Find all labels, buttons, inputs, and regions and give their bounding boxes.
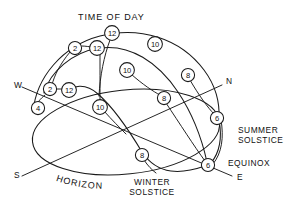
hour-marker-winter-12: 12	[62, 83, 77, 98]
annotation-line: SUMMER	[238, 125, 278, 135]
hour-marker-label: 8	[140, 151, 144, 160]
hour-marker-label: 4	[36, 104, 40, 113]
hour-marker-label: 6	[206, 161, 210, 170]
annotation-winter-solstice: WINTERSOLSTICE	[129, 177, 174, 197]
cardinal-label-north: N	[226, 76, 232, 86]
hour-marker-label: 8	[186, 71, 190, 80]
hour-marker-label: 12	[65, 86, 73, 95]
horizon-label: HORIZON	[55, 173, 103, 191]
hour-marker-winter-8: 8	[135, 148, 148, 161]
hour-marker-summer-8: 8	[181, 68, 194, 81]
hour-marker-summer-10: 10	[148, 37, 163, 52]
annotation-equinox: EQUINOX	[228, 158, 270, 168]
cardinal-label-south: S	[14, 170, 20, 180]
hour-marker-equinox-12: 12	[90, 41, 105, 56]
hour-marker-winter-10: 10	[93, 100, 108, 115]
hour-marker-summer-6: 6	[210, 111, 223, 124]
sun-path-diagram: 12108624121086212108 WNSE TIME OF DAY SU…	[0, 0, 299, 216]
cardinal-label-east: E	[237, 172, 243, 182]
hour-marker-label: 10	[123, 66, 131, 75]
annotation-line: SOLSTICE	[129, 187, 174, 197]
celestial-sphere-illustration: 12108624121086212108 WNSE TIME OF DAY SU…	[0, 0, 299, 216]
hour-marker-summer-4: 4	[31, 101, 44, 114]
hour-marker-label: 12	[93, 44, 101, 53]
hour-marker-label: 12	[108, 29, 116, 38]
hour-marker-equinox-8: 8	[157, 91, 170, 104]
hour-marker-summer-12: 12	[105, 26, 120, 41]
meridian-curve-10am	[131, 74, 160, 95]
winter-solstice-arc	[64, 86, 205, 171]
hour-marker-label: 10	[151, 40, 159, 49]
hour-marker-nodes: 12108624121086212108	[31, 26, 223, 172]
hour-marker-label: 2	[73, 44, 77, 53]
cardinal-axes-group	[22, 85, 232, 176]
cardinal-label-west: W	[14, 80, 22, 90]
annotation-line: EQUINOX	[228, 158, 270, 168]
meridian-curve-6am	[166, 103, 205, 161]
hour-marker-equinox-10: 10	[120, 63, 135, 78]
horizon-label-text: HORIZON	[55, 173, 103, 191]
winter-solstice-arc-group	[64, 86, 205, 171]
diagram-title: TIME OF DAY	[78, 12, 145, 22]
hour-marker-label: 10	[96, 103, 104, 112]
hour-marker-label: 2	[48, 85, 52, 94]
horizon-ellipse	[28, 80, 224, 183]
annotation-line: SOLSTICE	[238, 135, 283, 145]
hour-marker-summer-2: 2	[68, 41, 81, 54]
annotation-line: WINTER	[134, 177, 170, 187]
horizon-ellipse-group	[28, 80, 224, 183]
hour-marker-equinox-2: 2	[43, 82, 56, 95]
annotation-summer-solstice: SUMMERSOLSTICE	[238, 125, 283, 145]
hour-marker-label: 6	[215, 114, 219, 123]
hour-marker-equinox-6: 6	[201, 158, 214, 171]
hour-marker-label: 8	[162, 94, 166, 103]
